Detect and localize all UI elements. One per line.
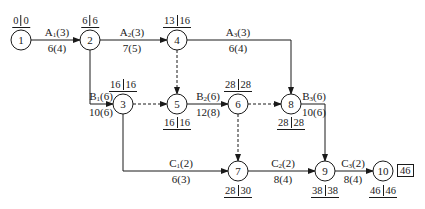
node-3-time: 1616 [109,79,137,92]
activity-a1-duration: 6(4) [48,42,66,54]
node-4-time: 1316 [163,15,191,28]
activity-a1-label: A1(3) [45,26,69,41]
node-4: 4 [174,34,180,46]
activity-b3-duration: 10(6) [302,106,326,118]
node-6: 6 [235,98,241,110]
node-1: 1 [18,34,24,46]
node-6-time: 2828 [224,79,252,92]
activity-c1-duration: 6(3) [172,173,190,185]
node-8-time: 2828 [277,117,305,130]
node-5-time: 1616 [163,117,191,130]
project-duration-box: 46 [397,164,414,177]
node-8: 8 [288,98,294,110]
activity-b2-label: B2(6) [196,90,220,105]
node-10-time: 4646 [369,185,397,198]
node-2: 2 [87,34,93,46]
activity-a3-duration: 6(4) [229,42,247,54]
activity-b3-label: B3(6) [302,90,326,105]
node-9: 9 [322,165,328,177]
activity-b2-duration: 12(8) [196,106,220,118]
activity-a2-label: A2(3) [120,26,144,41]
activity-a3-label: A3(3) [226,26,250,41]
activity-c2-duration: 8(4) [274,173,292,185]
activity-b1-duration: 10(6) [89,106,113,118]
node-3: 3 [120,98,126,110]
activity-a2-duration: 7(5) [123,42,141,54]
activity-c3-duration: 8(4) [344,173,362,185]
node-10: 10 [378,165,389,177]
activity-c1-label: C1(2) [169,157,193,172]
activity-b1-label: B1(6) [89,90,113,105]
node-1-time: 00 [12,15,30,28]
node-7: 7 [235,165,241,177]
activity-c3-label: C3(2) [341,157,365,172]
node-2-time: 66 [81,15,99,28]
activity-c2-label: C2(2) [271,157,295,172]
node-9-time: 3838 [311,185,339,198]
node-7-time: 2830 [224,185,252,198]
node-5: 5 [174,98,180,110]
